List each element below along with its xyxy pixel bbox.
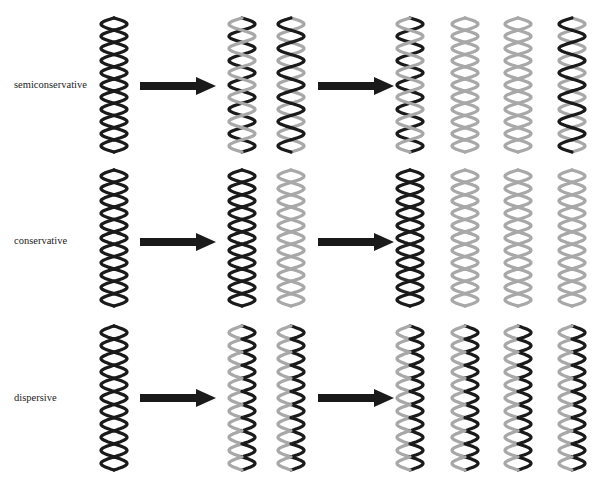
strand-segment-old bbox=[465, 365, 478, 378]
strand-segment-new bbox=[410, 30, 423, 42]
strand-segment-new bbox=[505, 140, 518, 152]
strand-segment-new bbox=[452, 444, 465, 457]
strand-segment-new bbox=[465, 294, 478, 306]
gen2-dna-helix bbox=[505, 18, 531, 152]
strand-segment-new bbox=[505, 67, 518, 79]
strand-segment-old bbox=[114, 91, 127, 103]
strand-segment-new bbox=[278, 182, 291, 194]
strand-segment-old bbox=[242, 257, 255, 269]
strand-segment-old bbox=[101, 281, 114, 293]
strand-segment-old bbox=[114, 18, 127, 30]
strand-segment-old bbox=[278, 18, 291, 30]
strand-segment-old bbox=[410, 269, 423, 281]
strand-segment-old bbox=[242, 418, 255, 431]
arrow-head bbox=[374, 77, 394, 95]
strand-segment-old bbox=[291, 79, 304, 91]
strand-segment-new bbox=[465, 91, 478, 103]
strand-segment-new bbox=[465, 269, 478, 281]
strand-segment-old bbox=[114, 219, 127, 231]
strand-segment-old bbox=[242, 42, 255, 54]
strand-segment-old bbox=[114, 269, 127, 281]
strand-segment-new bbox=[465, 79, 478, 91]
strand-segment-old bbox=[114, 128, 127, 140]
gen2-dna-helix bbox=[505, 170, 531, 306]
strand-segment-old bbox=[101, 103, 114, 115]
strand-segment-old bbox=[410, 365, 423, 378]
strand-segment-new bbox=[518, 269, 531, 281]
strand-segment-new bbox=[452, 195, 465, 207]
strand-segment-new bbox=[452, 378, 465, 391]
strand-segment-old bbox=[410, 219, 423, 231]
replication-arrow bbox=[140, 233, 216, 251]
strand-segment-old bbox=[101, 182, 114, 194]
strand-segment-new bbox=[397, 352, 410, 365]
strand-segment-old bbox=[114, 365, 127, 378]
strand-segment-old bbox=[114, 207, 127, 219]
strand-segment-new bbox=[397, 140, 410, 152]
strand-segment-old bbox=[114, 326, 127, 339]
strand-segment-new bbox=[559, 55, 572, 67]
strand-segment-old bbox=[518, 365, 531, 378]
replication-models-diagram: semiconservative conservative dispersive bbox=[0, 0, 599, 479]
strand-segment-new bbox=[452, 281, 465, 293]
strand-segment-old bbox=[572, 30, 585, 42]
strand-segment-old bbox=[101, 170, 114, 182]
strand-segment-old bbox=[242, 18, 255, 30]
strand-segment-old bbox=[242, 444, 255, 457]
strand-segment-new bbox=[559, 457, 572, 470]
strand-segment-new bbox=[291, 195, 304, 207]
strand-segment-old bbox=[101, 232, 114, 244]
strand-segment-old bbox=[572, 457, 585, 470]
strand-segment-new bbox=[518, 170, 531, 182]
strand-segment-old bbox=[291, 378, 304, 391]
strand-segment-old bbox=[114, 67, 127, 79]
strand-segment-new bbox=[397, 18, 410, 30]
strand-segment-old bbox=[242, 207, 255, 219]
strand-segment-old bbox=[410, 257, 423, 269]
strand-segment-new bbox=[505, 418, 518, 431]
strand-segment-new bbox=[229, 378, 242, 391]
strand-segment-old bbox=[410, 294, 423, 306]
strand-segment-old bbox=[242, 281, 255, 293]
strand-segment-old bbox=[397, 103, 410, 115]
strand-segment-old bbox=[229, 55, 242, 67]
strand-segment-old bbox=[410, 339, 423, 352]
strand-segment-new bbox=[452, 18, 465, 30]
strand-segment-old bbox=[101, 55, 114, 67]
strand-segment-old bbox=[291, 103, 304, 115]
strand-segment-new bbox=[397, 42, 410, 54]
strand-segment-new bbox=[242, 128, 255, 140]
strand-segment-new bbox=[465, 281, 478, 293]
strand-segment-new bbox=[465, 67, 478, 79]
strand-segment-new bbox=[291, 269, 304, 281]
strand-segment-new bbox=[572, 67, 585, 79]
strand-segment-new bbox=[518, 207, 531, 219]
strand-segment-old bbox=[101, 352, 114, 365]
gen2-dna-helix bbox=[452, 18, 478, 152]
strand-segment-old bbox=[291, 444, 304, 457]
strand-segment-new bbox=[505, 405, 518, 418]
strand-segment-new bbox=[410, 55, 423, 67]
strand-segment-old bbox=[101, 391, 114, 404]
strand-segment-new bbox=[518, 257, 531, 269]
strand-segment-old bbox=[410, 244, 423, 256]
replication-arrow bbox=[140, 389, 216, 407]
strand-segment-old bbox=[114, 378, 127, 391]
strand-segment-new bbox=[291, 170, 304, 182]
strand-segment-new bbox=[518, 294, 531, 306]
strand-segment-new bbox=[572, 269, 585, 281]
row-label-semiconservative: semiconservative bbox=[14, 79, 87, 90]
strand-segment-old bbox=[518, 444, 531, 457]
strand-segment-new bbox=[278, 326, 291, 339]
strand-segment-old bbox=[278, 42, 291, 54]
strand-segment-new bbox=[278, 405, 291, 418]
strand-segment-old bbox=[229, 195, 242, 207]
strand-segment-new bbox=[465, 140, 478, 152]
strand-segment-new bbox=[505, 115, 518, 127]
strand-segment-old bbox=[410, 391, 423, 404]
strand-segment-new bbox=[278, 378, 291, 391]
strand-segment-old bbox=[291, 457, 304, 470]
strand-segment-old bbox=[101, 378, 114, 391]
strand-segment-new bbox=[559, 182, 572, 194]
strand-segment-old bbox=[518, 418, 531, 431]
